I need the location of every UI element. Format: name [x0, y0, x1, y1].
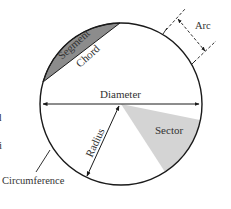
arc-label: Arc: [195, 20, 211, 31]
circumference-leader: [36, 150, 50, 172]
edge-fragment-1: d: [0, 111, 2, 123]
circle-parts-diagram: Segment Chord Arc Diameter Radius Sector…: [0, 0, 231, 209]
sector-shape: [121, 104, 200, 172]
radius-label: Radius: [83, 126, 107, 159]
sector-label: Sector: [155, 124, 183, 136]
circumference-label: Circumference: [2, 175, 65, 186]
edge-fragment-2: i: [0, 139, 2, 151]
arc-annotation: [163, 9, 216, 65]
diameter-label: Diameter: [100, 88, 141, 100]
